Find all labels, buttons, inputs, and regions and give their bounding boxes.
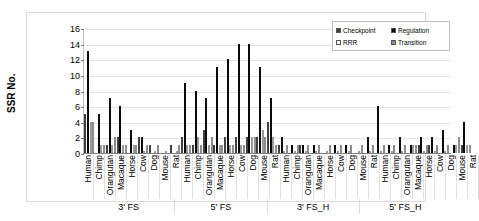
bar [428,145,430,153]
bar-cluster [95,29,106,153]
x-tick-label: Chimp [391,155,402,199]
bar [251,137,253,153]
group-label: 3' FS_H [268,199,360,214]
x-tick-label: Orangutan [402,155,413,199]
legend-item: Regulation [391,27,446,34]
bar [420,137,422,153]
bar [143,151,145,153]
bar-cluster [278,29,289,153]
bar [281,137,283,153]
bar [391,151,393,153]
y-tick-label: 8 [60,87,80,97]
legend-label: Checkpoint [343,27,376,34]
legend-swatch-icon [391,28,396,33]
y-tick-label: 4 [60,118,80,128]
legend-label: Regulation [398,27,429,34]
bar-cluster [460,29,471,153]
x-tick-label: Macaque [215,155,226,199]
y-tick-label: 2 [60,133,80,143]
bar [278,145,280,153]
x-tick-label: Horse [226,155,237,199]
legend-label: RRR [343,39,357,46]
bar [401,151,403,153]
bar-cluster [224,29,235,153]
legend-item: RRR [336,39,391,46]
bar [117,137,119,153]
y-tick-label: 14 [60,40,80,50]
x-tick-label: Cow [336,155,347,199]
bar [224,137,226,153]
bar [238,44,240,153]
legend-swatch-icon [336,40,341,45]
legend-swatch-icon [391,40,396,45]
x-tick-label: Cow [435,155,446,199]
bar [213,145,215,153]
x-tick-label: Horse [127,155,138,199]
bar [170,145,172,153]
x-tick-label: Orangutan [105,155,116,199]
chart-legend: CheckpointRegulationRRRTransition [332,21,450,51]
y-tick-label: 6 [60,102,80,112]
y-tick-label: 16 [60,24,80,34]
x-tick-label: Mouse [259,155,270,199]
bar [130,130,132,153]
bar [410,145,412,153]
bar [176,151,178,153]
bar-cluster [256,29,267,153]
x-tick-label: Mouse [160,155,171,199]
bar-cluster [127,29,138,153]
bar [119,106,121,153]
bar [256,137,258,153]
x-tick-label: Orangutan [303,155,314,199]
x-tick-label: Dog [149,155,160,199]
x-tick-label: Horse [325,155,336,199]
bar [291,145,293,153]
bar [305,151,307,153]
bar-cluster [213,29,224,153]
bar [431,137,433,153]
x-label-group: HumanChimpOrangutanMacaqueHorseCowDogMou… [182,155,281,199]
bar-cluster [192,29,203,153]
bar [109,98,111,153]
bar [302,145,304,153]
legend-label: Transition [398,39,426,46]
bar [87,51,89,153]
bar [208,145,210,153]
bar [313,145,315,153]
bar [294,151,296,153]
x-label-group: HumanChimpOrangutanMacaqueHorseCowDogMou… [281,155,380,199]
bar [227,59,229,153]
bar [106,145,108,153]
bar [138,137,140,153]
bar [235,137,237,153]
bar [345,145,347,153]
bar [283,151,285,153]
legend-item: Checkpoint [336,27,391,34]
bar [133,145,135,153]
bar [270,98,272,153]
bar [181,137,183,153]
bar-cluster [116,29,127,153]
group-label: 5' FS [175,199,267,214]
chart-frame: CheckpointRegulationRRRTransition 024681… [26,12,426,202]
y-tick-label: 12 [60,55,80,65]
x-tick-label: Mouse [457,155,468,199]
bar [267,122,269,153]
bar [442,130,444,153]
bar [334,145,336,153]
bar [469,145,471,153]
y-tick-label: 10 [60,71,80,81]
bar [377,106,379,153]
bar [444,151,446,153]
bar-cluster [310,29,321,153]
legend-item: Transition [391,39,446,46]
bar [412,145,414,153]
bar [122,145,124,153]
bar [434,151,436,153]
bar [399,137,401,153]
x-axis-labels: HumanChimpOrangutanMacaqueHorseCowDogMou… [83,155,451,199]
x-tick-label: Dog [446,155,457,199]
bar [219,145,221,153]
x-tick-label: Human [83,155,94,199]
